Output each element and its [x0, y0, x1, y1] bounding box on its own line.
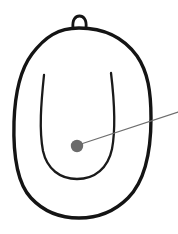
- figure-canvas: [0, 0, 178, 234]
- annotation-point-marker[interactable]: [71, 140, 83, 152]
- line-drawing-svg: [0, 0, 178, 234]
